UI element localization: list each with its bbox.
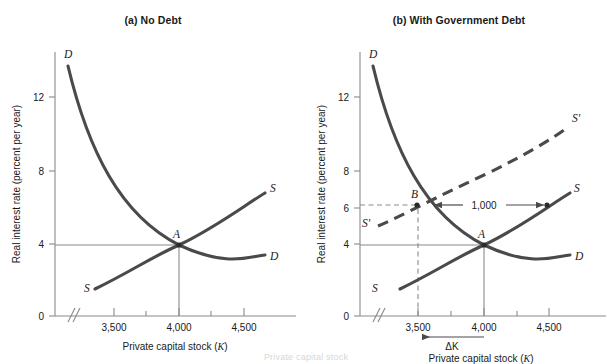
shift-end-dot <box>544 202 549 207</box>
point-a-dot <box>481 242 486 247</box>
x-ticklabel-3500: 3,500 <box>405 322 430 333</box>
x-axis-title-pre: Private capital stock ( <box>122 341 218 352</box>
point-b-dot <box>414 202 419 207</box>
point-b-label: B <box>411 188 418 200</box>
y-ticklabel-6: 6 <box>343 203 349 214</box>
panel-b-chart: 0 4 6 8 12 3,500 4,000 4,500 <box>306 0 612 364</box>
y-ticklabel-0: 0 <box>38 311 44 322</box>
point-a-label: A <box>477 228 486 240</box>
x-ticklabel-4000: 4,000 <box>166 322 191 333</box>
panel-a-chart: 0 4 8 12 3,500 4,000 4,500 <box>0 0 306 364</box>
point-a-dot <box>176 242 181 247</box>
x-axis-title-post: ) <box>224 341 227 352</box>
demand-label-right: D <box>269 250 279 262</box>
axis-break-symbol <box>373 308 385 322</box>
y-axis-title: Real interest rate (percent per year) <box>316 105 327 263</box>
y-ticklabel-8: 8 <box>343 166 349 177</box>
demand-curve <box>373 66 570 259</box>
delta-k-label: ΔK <box>445 341 459 352</box>
supply-curve <box>95 193 265 289</box>
supply-label-top: S <box>574 182 580 194</box>
supply-label-left: S <box>372 282 378 294</box>
supply-shifted-label-left: S' <box>362 217 371 229</box>
x-axis-title: Private capital stock (K) <box>122 341 227 352</box>
y-ticklabel-4: 4 <box>38 239 44 250</box>
demand-curve <box>68 66 265 259</box>
x-ticklabel-4500: 4,500 <box>231 322 256 333</box>
supply-label-left: S <box>84 282 90 294</box>
x-ticklabel-3500: 3,500 <box>101 322 126 333</box>
y-axis-title: Real interest rate (percent per year) <box>11 105 22 263</box>
y-ticklabel-12: 12 <box>338 92 350 103</box>
figure-container: (a) No Debt 0 4 8 12 <box>0 0 612 364</box>
point-a-label: A <box>172 228 181 240</box>
x-ticklabel-4000: 4,000 <box>471 322 496 333</box>
y-ticklabel-12: 12 <box>33 92 45 103</box>
shift-measure-label: 1,000 <box>471 200 496 211</box>
figure-caption: Private capital stock <box>0 352 612 362</box>
x-ticklabel-4500: 4,500 <box>536 322 561 333</box>
y-ticklabel-0: 0 <box>343 311 349 322</box>
y-ticklabel-4: 4 <box>343 239 349 250</box>
y-ticklabel-8: 8 <box>38 166 44 177</box>
demand-label-top: D <box>368 48 378 60</box>
demand-label-right: D <box>574 250 584 262</box>
axis-break-symbol <box>68 308 80 322</box>
supply-label-top: S <box>270 182 276 194</box>
supply-shifted-label-top: S' <box>572 112 581 124</box>
panel-with-government-debt: (b) With Government Debt 0 4 6 8 <box>306 0 612 364</box>
demand-label-top: D <box>63 48 73 60</box>
panel-no-debt: (a) No Debt 0 4 8 12 <box>0 0 306 364</box>
